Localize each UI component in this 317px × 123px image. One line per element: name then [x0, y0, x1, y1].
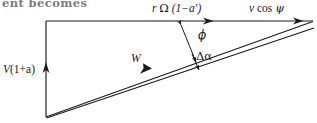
- label-rotational-velocity: r Ω (1−a′): [152, 3, 201, 15]
- label-angle-change-delta-alpha: Δα: [196, 51, 212, 63]
- label-axial-left: V(1+a): [3, 64, 35, 76]
- label-flow-angle-phi: ϕ: [198, 29, 206, 41]
- label-rotational-omega: Ω: [159, 1, 169, 15]
- label-relative-velocity: W: [131, 53, 141, 65]
- label-axial-right-angle: ψ: [275, 1, 284, 15]
- label-rotational-factor: (1−a′): [172, 2, 201, 14]
- perpendicular-double-arrow: [181, 25, 196, 62]
- label-axial-left-factor: (1+a): [10, 63, 35, 75]
- left-vertical-vector-line: [43, 21, 50, 117]
- relative-velocity-arrowhead: [140, 63, 152, 74]
- velocity-triangle-diagram: [0, 0, 317, 123]
- resultant-hypotenuse-line: [46, 22, 313, 118]
- label-axial-right-trig: cos: [257, 2, 272, 14]
- label-axial-left-speed: V: [3, 63, 10, 75]
- relative-velocity-line: [47, 28, 315, 118]
- top-horizontal-vector-line: [46, 18, 313, 25]
- label-axial-right: v cos ψ: [249, 3, 284, 15]
- figure-canvas: ent becomes: [0, 0, 317, 123]
